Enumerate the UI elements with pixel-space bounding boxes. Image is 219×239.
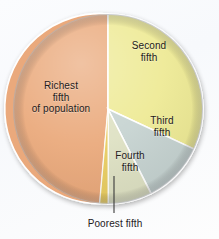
pie-chart-figure: Richest fifth of population Second fifth… [0,0,219,239]
pie-label-fourth-fifth: Fourth fifth [104,150,156,173]
pie-label-richest-fifth: Richest fifth of population [14,80,108,115]
pie-label-richest-fifth-line3: of population [14,103,108,115]
pie-label-poorest-fifth: Poorest fifth [60,218,170,230]
pie-label-second-fifth: Second fifth [118,40,180,63]
pie-label-fourth-fifth-line2: fifth [104,162,156,174]
pie-label-richest-fifth-line2: fifth [14,92,108,104]
pie-chart-canvas [0,0,219,239]
pie-label-third-fifth: Third fifth [138,115,186,138]
pie-label-fourth-fifth-line1: Fourth [104,150,156,162]
pie-label-second-fifth-line1: Second [118,40,180,52]
pie-label-second-fifth-line2: fifth [118,52,180,64]
pie-label-third-fifth-line1: Third [138,115,186,127]
pie-label-richest-fifth-line1: Richest [14,80,108,92]
pie-label-third-fifth-line2: fifth [138,127,186,139]
